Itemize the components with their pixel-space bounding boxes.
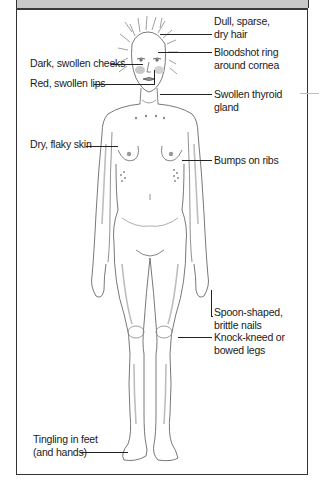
leader-cheeks — [111, 64, 143, 65]
leader-lips-vertical — [154, 70, 155, 85]
label-thyroid-line2: gland — [214, 101, 282, 114]
label-eyes-line1: Bloodshot ring — [214, 46, 279, 59]
leader-legs — [178, 337, 212, 338]
label-eyes: Bloodshot ring around cornea — [214, 46, 279, 72]
label-legs-line1: Knock-kneed or — [214, 331, 285, 344]
leader-thyroid — [160, 94, 212, 95]
label-nails-line1: Spoon-shaped, — [214, 306, 283, 319]
leader-feet — [80, 452, 128, 453]
label-thyroid: Swollen thyroid gland — [214, 88, 282, 114]
label-hair-line2: dry hair — [214, 28, 270, 41]
header-bar — [16, 0, 309, 8]
leader-skin — [86, 146, 118, 147]
label-legs-line2: bowed legs — [214, 344, 285, 357]
label-eyes-line2: around cornea — [214, 59, 279, 72]
label-legs: Knock-kneed or bowed legs — [214, 331, 285, 357]
leader-lips — [94, 84, 154, 85]
head — [132, 32, 166, 92]
leader-eyes — [158, 52, 212, 53]
leader-ribs — [182, 160, 212, 161]
leader-nails-vertical — [211, 290, 212, 317]
label-hair: Dull, sparse, dry hair — [214, 15, 270, 41]
label-feet-line1: Tingling in feet — [33, 433, 98, 446]
leader-hair — [160, 34, 212, 35]
label-ribs: Bumps on ribs — [214, 154, 279, 167]
leader-nails — [211, 316, 213, 317]
rib-bumps — [120, 115, 179, 182]
leader-thyroid-extension — [300, 93, 319, 94]
label-nails: Spoon-shaped, brittle nails — [214, 306, 283, 332]
label-ribs-line1: Bumps on ribs — [214, 154, 279, 167]
label-feet: Tingling in feet (and hands) — [33, 433, 98, 459]
label-thyroid-line1: Swollen thyroid — [214, 88, 282, 101]
label-hair-line1: Dull, sparse, — [214, 15, 270, 28]
label-skin-line1: Dry, flaky skin — [30, 138, 92, 151]
label-skin: Dry, flaky skin — [30, 138, 92, 151]
